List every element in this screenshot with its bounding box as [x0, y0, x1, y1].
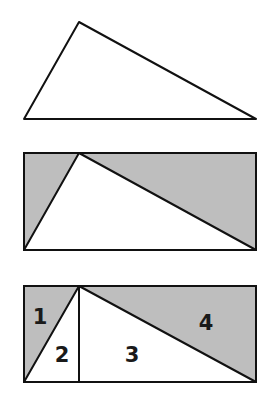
region-label-2: 2: [55, 343, 70, 367]
figure-triangle: [24, 22, 256, 119]
region-label-1: 1: [33, 305, 48, 329]
figure-triangle-in-rectangle: [24, 153, 256, 250]
triangle: [24, 22, 256, 119]
figure-four-regions: 1 2 3 4: [24, 286, 256, 382]
region-label-3: 3: [125, 343, 140, 367]
geometry-diagram: 1 2 3 4: [0, 0, 272, 409]
region-label-4: 4: [199, 311, 214, 335]
